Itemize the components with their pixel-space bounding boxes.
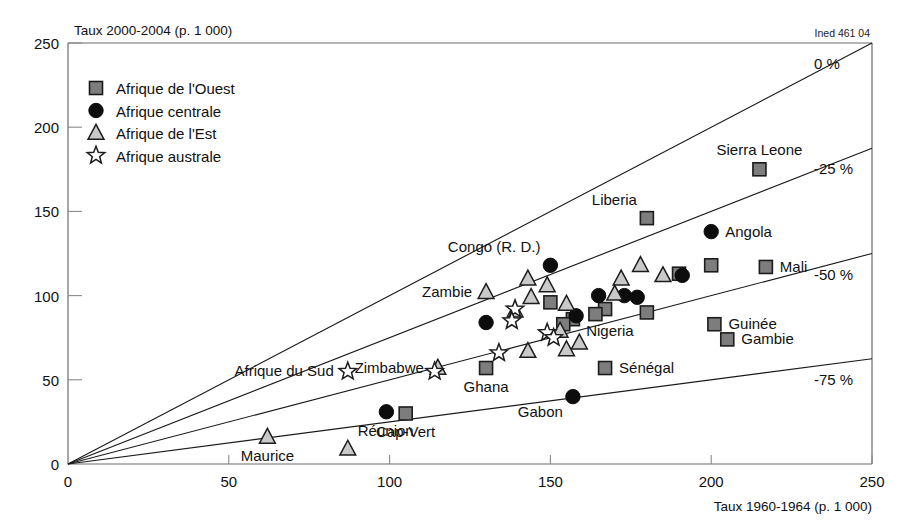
point-label: Réunion	[358, 422, 414, 439]
y-tick-label: 200	[34, 119, 59, 136]
square-marker	[480, 362, 493, 375]
star-marker	[87, 146, 105, 163]
reference-line-label-0: 0 %	[814, 55, 840, 72]
x-tick-label: 200	[699, 473, 724, 490]
y-tick-label: 100	[34, 288, 59, 305]
point-label: Ghana	[464, 378, 510, 395]
square-marker	[399, 407, 412, 420]
square-marker	[708, 318, 721, 331]
circle-marker	[675, 268, 689, 282]
reference-line-3	[68, 359, 872, 464]
triangle-marker	[633, 257, 649, 272]
reference-line-1	[68, 148, 872, 464]
circle-marker	[566, 389, 580, 403]
x-tick-label: 250	[859, 473, 884, 490]
triangle-marker	[88, 124, 104, 139]
triangle-marker	[520, 270, 536, 285]
circle-marker	[591, 288, 605, 302]
triangle-marker	[259, 428, 275, 443]
square-marker	[759, 260, 772, 273]
triangle-marker	[559, 295, 575, 310]
reference-line-label-1: -25 %	[814, 160, 853, 177]
square-marker	[640, 212, 653, 225]
point-label: Zambie	[422, 283, 472, 300]
x-tick-label: 100	[377, 473, 402, 490]
triangle-marker	[340, 440, 356, 455]
point-label: Liberia	[592, 191, 638, 208]
triangle-marker	[523, 289, 539, 304]
triangle-marker	[571, 334, 587, 349]
point-label: Afrique du Sud	[235, 362, 334, 379]
circle-marker	[89, 103, 103, 117]
star-marker	[490, 344, 508, 361]
circle-marker	[630, 290, 644, 304]
x-axis-title: Taux 1960-1964 (p. 1 000)	[714, 499, 872, 514]
point-label: Sénégal	[619, 359, 674, 376]
circle-marker	[379, 405, 393, 419]
triangle-marker	[613, 270, 629, 285]
point-label: Sierra Leone	[716, 141, 802, 158]
scatter-plot: 0 %-25 %-50 %-75 %0501001502002500501001…	[0, 0, 914, 529]
circle-marker	[704, 224, 718, 238]
y-axis-title: Taux 2000-2004 (p. 1 000)	[74, 23, 232, 38]
square-marker	[544, 296, 557, 309]
x-tick-label: 150	[538, 473, 563, 490]
circle-marker	[479, 315, 493, 329]
point-label: Mali	[780, 258, 808, 275]
y-tick-label: 150	[34, 203, 59, 220]
point-label: Angola	[725, 223, 772, 240]
legend-label-3: Afrique australe	[116, 148, 221, 165]
point-label: Gambie	[741, 330, 794, 347]
square-marker	[90, 82, 103, 95]
square-marker	[640, 306, 653, 319]
y-tick-label: 250	[34, 35, 59, 52]
point-label: Nigeria	[586, 322, 634, 339]
point-label: Zimbabwe	[355, 359, 424, 376]
chart-page: 0 %-25 %-50 %-75 %0501001502002500501001…	[0, 0, 914, 529]
x-tick-label: 0	[64, 473, 72, 490]
reference-line-label-3: -75 %	[814, 371, 853, 388]
legend-label-0: Afrique de l'Ouest	[116, 80, 236, 97]
triangle-marker	[478, 284, 494, 299]
triangle-marker	[655, 267, 671, 282]
point-label: Congo (R. D.)	[448, 238, 541, 255]
square-marker	[721, 333, 734, 346]
point-label: Gabon	[518, 403, 563, 420]
triangle-marker	[539, 277, 555, 292]
square-marker	[599, 362, 612, 375]
circle-marker	[543, 258, 557, 272]
credit-label: Ined 461 04	[815, 27, 871, 39]
point-label: Maurice	[241, 447, 294, 464]
y-tick-label: 0	[51, 456, 59, 473]
square-marker	[589, 308, 602, 321]
square-marker	[753, 163, 766, 176]
square-marker	[705, 259, 718, 272]
legend-label-1: Afrique centrale	[116, 103, 221, 120]
y-tick-label: 50	[42, 372, 59, 389]
reference-line-label-2: -50 %	[814, 266, 853, 283]
legend-label-2: Afrique de l'Est	[116, 125, 217, 142]
x-tick-label: 50	[220, 473, 237, 490]
